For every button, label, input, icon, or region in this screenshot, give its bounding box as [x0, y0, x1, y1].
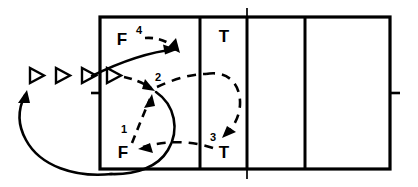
label-step-4: 4 — [136, 24, 143, 36]
player-marker-icon-2 — [56, 68, 70, 83]
step-3-arrowhead-icon — [138, 143, 153, 153]
label-feeder-bottom: F — [118, 143, 128, 162]
label-step-1: 1 — [121, 123, 127, 135]
return-arc-solid-path — [20, 95, 113, 175]
label-step-2: 2 — [155, 71, 161, 83]
right-loop-arrowhead-icon — [222, 126, 236, 138]
player-marker-icon-4 — [107, 68, 121, 83]
return-arc-arrowhead-icon — [18, 90, 30, 103]
approach-path-solid — [92, 49, 176, 76]
drill-diagram-canvas: F 4 2 1 F 3 T T — [0, 0, 418, 187]
entry-to-two-arrowhead-icon — [142, 79, 155, 91]
step-3-dashed-path — [143, 142, 213, 148]
label-feeder-top: F — [117, 30, 127, 49]
label-step-3: 3 — [210, 131, 216, 143]
drill-diagram: F 4 2 1 F 3 T T — [0, 0, 418, 187]
step-1-arrowhead-icon — [144, 94, 155, 108]
player-marker-icon-1 — [30, 68, 44, 83]
right-loop-dashed-path — [206, 73, 240, 134]
label-target-bottom: T — [219, 143, 230, 162]
label-target-top: T — [219, 27, 230, 46]
